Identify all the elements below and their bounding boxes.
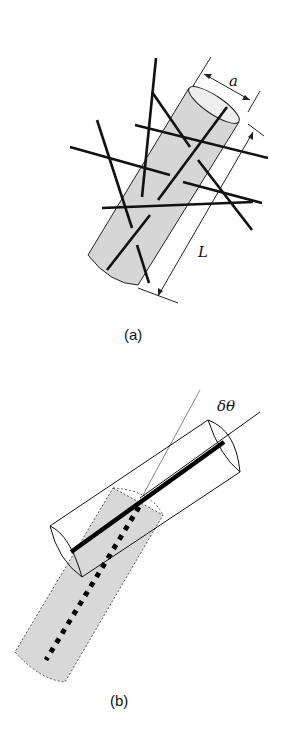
panel-b: δθ (b) [15, 390, 260, 709]
caption-a: (a) [124, 326, 142, 343]
figure-canvas: a L (a) δθ [0, 0, 292, 744]
panel-a: a L (a) [70, 57, 268, 343]
caption-b: (b) [110, 692, 128, 709]
label-delta-theta: δθ [217, 397, 235, 415]
label-L: L [197, 243, 208, 261]
label-a: a [229, 72, 238, 90]
